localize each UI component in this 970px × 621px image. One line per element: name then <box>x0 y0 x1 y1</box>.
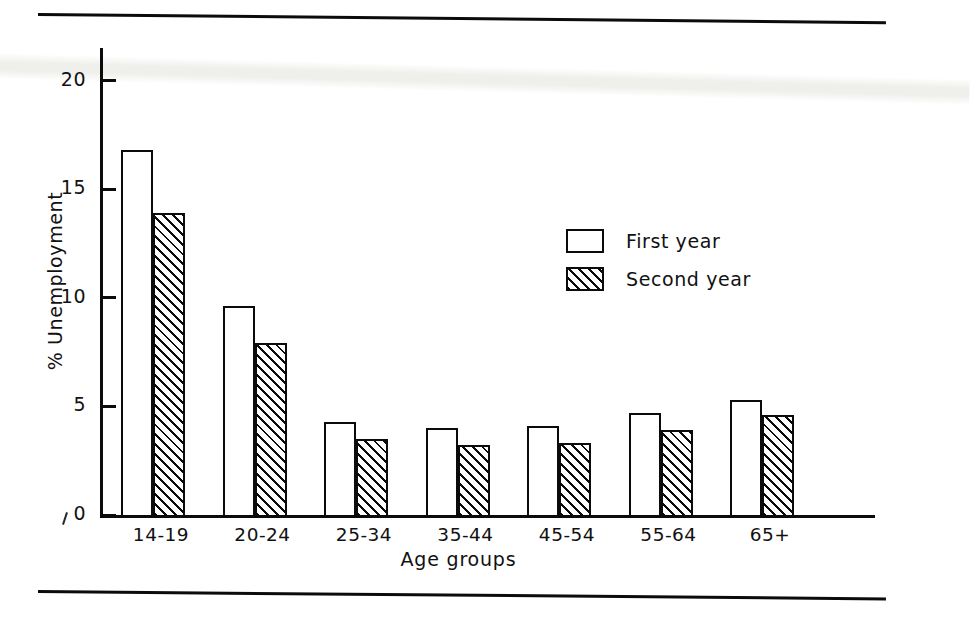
x-tick-label-35-44: 35-44 <box>416 524 516 545</box>
y-axis-tick-label: 20 <box>42 68 86 90</box>
bar-65plus-second-year <box>762 415 794 517</box>
bar-55-64-first-year <box>629 413 661 517</box>
bar-20-24-second-year <box>255 343 287 517</box>
legend-item-first-year: First year <box>566 228 720 254</box>
legend-item-second-year: Second year <box>566 266 751 292</box>
x-tick-label-45-54: 45-54 <box>517 524 617 545</box>
y-axis-tick-label: 0 <box>42 502 86 524</box>
y-axis-tick <box>103 514 116 517</box>
x-tick-label-65plus: 65+ <box>720 524 820 545</box>
y-axis-tick-label: 5 <box>42 393 86 415</box>
bar-45-54-second-year <box>559 443 591 517</box>
x-axis-title: Age groups <box>0 548 913 570</box>
legend-label-second-year: Second year <box>626 268 751 290</box>
y-axis-tick <box>103 79 116 82</box>
legend-swatch-open <box>566 229 604 253</box>
bar-25-34-second-year <box>356 439 388 517</box>
bar-20-24-first-year <box>223 306 255 517</box>
bar-55-64-second-year <box>661 430 693 517</box>
bar-14-19-second-year <box>153 213 185 517</box>
x-axis-title-text: Age groups <box>401 548 517 570</box>
bar-14-19-first-year <box>121 150 153 517</box>
x-tick-label-25-34: 25-34 <box>314 524 414 545</box>
y-axis-tick <box>103 296 116 299</box>
x-tick-label-14-19: 14-19 <box>111 524 211 545</box>
bar-25-34-first-year <box>324 422 356 517</box>
y-axis-tick <box>103 188 116 191</box>
bottom-horizontal-rule <box>38 590 886 600</box>
y-axis-tick <box>103 405 116 408</box>
y-axis-line <box>100 48 103 518</box>
top-horizontal-rule <box>38 13 886 24</box>
legend-label-first-year: First year <box>626 230 720 252</box>
bar-35-44-second-year <box>458 445 490 517</box>
bar-65plus-first-year <box>730 400 762 517</box>
bar-35-44-first-year <box>426 428 458 517</box>
legend-swatch-hatched <box>566 267 604 291</box>
bar-45-54-first-year <box>527 426 559 517</box>
x-tick-label-55-64: 55-64 <box>619 524 719 545</box>
x-tick-label-20-24: 20-24 <box>213 524 313 545</box>
scan-artifact-band <box>0 52 970 105</box>
y-axis-title: % Unemployment <box>44 181 66 381</box>
